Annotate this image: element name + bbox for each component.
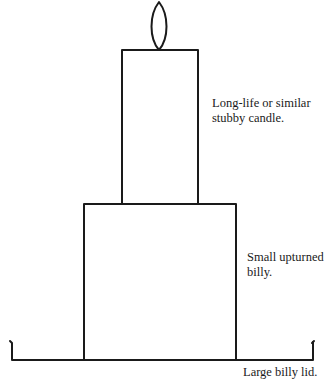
billy-label: Small upturned billy. <box>247 250 324 280</box>
candle-label: Long-life or similar stubby candle. <box>212 96 311 126</box>
billy-shape <box>84 204 236 360</box>
lid-label-line1: Large billy lid. <box>243 365 317 380</box>
candle-stove-diagram <box>0 0 328 388</box>
lid-label: Large billy lid. <box>243 365 317 380</box>
candle-label-line1: Long-life or similar <box>212 96 311 111</box>
candle-label-line2: stubby candle. <box>212 111 311 126</box>
lid-hook-right <box>312 341 314 343</box>
lid-shape <box>10 341 313 360</box>
flame-shape <box>152 2 167 50</box>
candle-shape <box>122 50 198 204</box>
billy-label-line1: Small upturned <box>247 250 324 265</box>
billy-label-line2: billy. <box>247 265 324 280</box>
